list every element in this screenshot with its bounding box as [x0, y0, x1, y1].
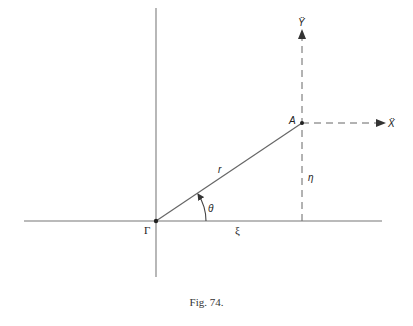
angle-label: θ: [208, 203, 214, 214]
figure-caption: Fig. 74.: [0, 296, 413, 308]
eta-label: η: [308, 172, 314, 183]
diagram: Γ A r θ ξ η Ẍ Ÿ: [0, 0, 413, 326]
y-accel-label: Ÿ: [298, 17, 306, 28]
point-a: [300, 121, 304, 125]
origin-point: [154, 219, 158, 223]
radius-line: [156, 123, 302, 221]
radius-label: r: [218, 164, 222, 175]
xi-label: ξ: [235, 224, 240, 237]
point-a-label: A: [288, 115, 296, 126]
origin-label: Γ: [144, 224, 150, 236]
angle-arc: [198, 194, 206, 221]
x-accel-label: Ẍ: [387, 118, 395, 129]
